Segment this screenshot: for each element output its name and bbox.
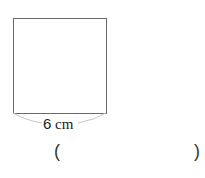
answer-paren-open: ( [54,141,60,161]
side-length-unit: cm [55,116,73,132]
answer-paren-close: ) [194,141,200,161]
side-length-label: 6 cm [43,115,73,133]
dimension-brace [0,0,205,178]
side-length-value: 6 [43,115,51,132]
